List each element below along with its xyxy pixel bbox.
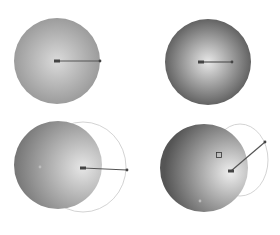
gradient-radius-handle[interactable] [126,169,129,172]
gradient-focus-handle[interactable] [198,61,204,64]
gradient-radius-handle[interactable] [99,60,102,63]
gradient-canvas [0,0,280,235]
gradient-radius-handle[interactable] [231,61,234,64]
gradient-center-dot[interactable] [39,166,42,169]
panel-offset-focus-right [14,121,128,212]
gradient-sphere[interactable] [14,121,102,209]
panel-centered-gradient [14,18,101,104]
panel-small-center-highlight [165,19,251,105]
gradient-focus-handle[interactable] [80,167,86,170]
gradient-focus-handle[interactable] [228,170,234,173]
gradient-focus-handle[interactable] [54,60,60,63]
gradient-center-dot[interactable] [199,200,202,203]
gradient-radius-handle[interactable] [264,141,267,144]
panel-angled-focus [160,124,268,212]
